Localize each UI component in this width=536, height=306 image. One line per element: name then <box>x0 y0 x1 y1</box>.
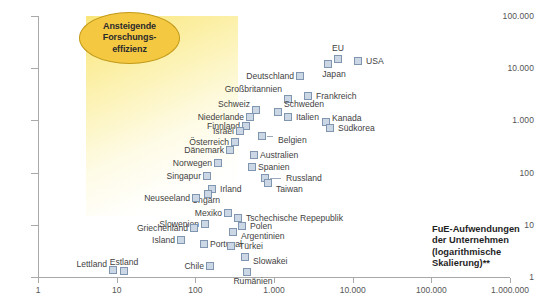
data-point-marker <box>226 146 234 154</box>
x-axis-caption-line-3: (logarithmische <box>432 247 536 258</box>
x-axis-caption: FuE-Aufwendungen der Unternehmen (logari… <box>432 224 536 270</box>
data-point-label: Lettland <box>76 260 107 269</box>
data-point-marker <box>229 228 237 236</box>
data-point-marker <box>246 113 254 121</box>
x-tick-mark <box>38 278 39 283</box>
data-point-label: Kanada <box>332 114 362 123</box>
data-point-marker <box>234 214 242 222</box>
data-point-label: Schweiz <box>218 100 250 109</box>
data-point-label: Island <box>152 236 175 245</box>
callout-line-1: Ansteigende <box>103 21 156 32</box>
label-leader-line <box>267 136 273 137</box>
data-point-marker <box>326 124 334 132</box>
data-point-marker <box>203 172 211 180</box>
data-point-label: Australien <box>260 151 298 160</box>
data-point-label: Südkorea <box>338 124 375 133</box>
data-point-marker <box>236 127 244 135</box>
data-point-label: USA <box>366 57 384 66</box>
x-tick-label: 100.000 <box>416 285 447 295</box>
y-tick-label: 10.000 <box>500 63 534 73</box>
data-point-marker <box>177 236 185 244</box>
data-point-marker <box>274 108 282 116</box>
data-point-marker <box>250 151 258 159</box>
data-point-label: Slowakei <box>253 257 287 266</box>
efficiency-callout: Ansteigende Forschungs- effizienz <box>79 12 180 64</box>
data-point-label: Taiwan <box>276 185 303 194</box>
data-point-marker <box>224 209 232 217</box>
data-point-label: Belgien <box>278 136 307 145</box>
data-point-label: Türkei <box>239 242 263 251</box>
x-axis-caption-line-4: Skalierung)** <box>432 258 536 269</box>
data-point-marker <box>214 159 222 167</box>
x-tick-mark <box>117 278 118 283</box>
data-point-label: EU <box>332 44 344 53</box>
data-point-marker <box>248 163 256 171</box>
data-point-label: Japan <box>322 70 345 79</box>
data-point-marker <box>109 266 117 274</box>
data-point-label: Irland <box>220 185 242 194</box>
data-point-label: Israel <box>213 127 234 136</box>
data-point-label: Neuseeland <box>144 194 190 203</box>
callout-line-3: effizienz <box>112 44 147 55</box>
data-point-label: Chile <box>184 262 204 271</box>
data-point-label: Singapur <box>167 172 201 181</box>
x-axis-caption-line-1: FuE-Aufwendungen <box>432 224 536 235</box>
data-point-marker <box>192 194 200 202</box>
x-axis-caption-line-2: der Unternehmen <box>432 235 536 246</box>
data-point-label: Spanien <box>258 163 290 172</box>
data-point-label: Griechenland <box>137 224 188 233</box>
data-point-marker <box>231 138 239 146</box>
data-point-label: Polen <box>250 222 272 231</box>
data-point-marker <box>258 132 266 140</box>
data-point-label: Dänemark <box>184 146 224 155</box>
x-tick-label: 1.000.000 <box>491 285 529 295</box>
y-axis-line <box>38 16 39 278</box>
data-point-label: Mexiko <box>195 209 222 218</box>
y-tick-label: 1.000 <box>500 115 534 125</box>
y-tick-mark <box>31 120 39 121</box>
data-point-marker <box>284 113 292 121</box>
data-point-marker <box>241 253 249 261</box>
x-tick-mark <box>274 278 275 283</box>
data-point-marker <box>296 72 304 80</box>
x-tick-mark <box>431 278 432 283</box>
data-point-marker <box>238 222 246 230</box>
x-tick-mark <box>353 278 354 283</box>
data-point-marker <box>206 262 214 270</box>
x-tick-mark <box>510 278 511 283</box>
data-point-label: Italien <box>296 113 319 122</box>
data-point-label: Deutschland <box>246 72 294 81</box>
x-tick-label: 10.000 <box>340 285 366 295</box>
x-tick-label: 1 <box>36 285 41 295</box>
y-tick-mark <box>31 173 39 174</box>
data-point-label: Schweden <box>284 100 324 109</box>
data-point-marker <box>120 267 128 275</box>
y-tick-label: 100.000 <box>500 11 534 21</box>
data-point-label: Russland <box>286 174 322 183</box>
y-tick-mark <box>31 225 39 226</box>
callout-line-2: Forschungs- <box>103 32 156 43</box>
x-tick-label: 100 <box>188 285 202 295</box>
data-point-marker <box>201 220 209 228</box>
data-point-label: Norwegen <box>173 159 212 168</box>
data-point-label: Rumänien <box>233 277 272 286</box>
data-point-label: Portugal <box>210 240 242 249</box>
x-tick-mark <box>195 278 196 283</box>
data-point-marker <box>227 242 235 250</box>
data-point-marker <box>334 55 342 63</box>
x-tick-label: 1.000 <box>263 285 284 295</box>
data-point-marker <box>200 240 208 248</box>
y-tick-mark <box>31 68 39 69</box>
y-tick-mark <box>31 16 39 17</box>
data-point-label: Argentinien <box>241 232 284 241</box>
data-point-marker <box>264 179 272 187</box>
data-point-label: Großbritannien <box>225 85 282 94</box>
y-tick-label: 1 <box>500 272 534 282</box>
x-tick-label: 10 <box>112 285 121 295</box>
data-point-marker <box>190 224 198 232</box>
data-point-marker <box>324 60 332 68</box>
y-tick-label: 100 <box>500 168 534 178</box>
data-point-marker <box>354 57 362 65</box>
